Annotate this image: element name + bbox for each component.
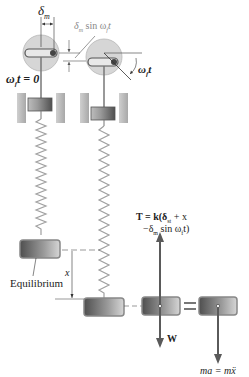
right-guide-r: [119, 93, 128, 123]
spring-mass-diagram: [0, 0, 249, 377]
omega-t-angle-label: ωft: [138, 64, 151, 78]
free-body-diagram: [124, 232, 237, 364]
equilibrium-label: Equilibrium: [10, 278, 63, 289]
delta-sin-label: δm sin ωft: [74, 21, 111, 33]
left-spring: [36, 119, 46, 235]
displaced-block: [84, 298, 124, 316]
x-dimension: [55, 250, 100, 299]
left-pin: [50, 50, 56, 56]
right-spring: [99, 126, 109, 298]
right-guide-l: [80, 93, 89, 123]
right-exciter: [59, 36, 142, 316]
right-piston: [91, 107, 115, 120]
weight-label: W: [167, 334, 177, 344]
right-pin: [111, 59, 117, 65]
delta-m-label: δm: [38, 4, 50, 21]
omega-t-zero-label: ωft = 0: [6, 73, 39, 88]
tension-label-line2: −δm sin ωft): [143, 224, 189, 236]
ma-label: ma = mẍ: [200, 366, 236, 376]
left-piston: [28, 98, 52, 111]
left-guide-l: [17, 93, 26, 123]
x-label: x: [65, 268, 69, 278]
left-guide-r: [56, 93, 65, 123]
left-exciter: [17, 17, 65, 276]
equilibrium-block: [20, 240, 60, 258]
equilibrium-pointer: [33, 258, 36, 276]
